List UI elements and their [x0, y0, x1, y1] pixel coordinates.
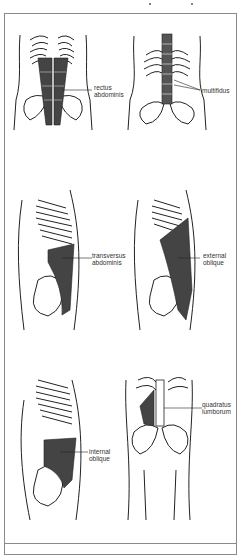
label-line: quadratus: [202, 401, 231, 408]
figure-transversus-abdominis: transversus abdominis: [0, 200, 120, 330]
figure-internal-oblique: internal oblique: [0, 380, 120, 520]
figure-quadratus-lumborum: quadratus lumborum: [120, 380, 241, 520]
label-line: multifidus: [202, 87, 229, 94]
figure-rectus-abdominis: rectus abdominis: [0, 0, 120, 130]
label-multifidus: multifidus: [202, 87, 229, 94]
label-line: lumborum: [202, 408, 231, 415]
figure-external-oblique: external oblique: [120, 200, 241, 330]
label-line: internal: [89, 448, 110, 455]
figure-multifidus: multifidus: [120, 0, 241, 130]
label-external-oblique: external oblique: [203, 252, 226, 266]
label-internal-oblique: internal oblique: [89, 448, 110, 462]
torso-anterior-illustration: [0, 0, 120, 130]
caption-frame: [4, 543, 237, 555]
label-line: oblique: [203, 259, 226, 266]
label-line: external: [203, 252, 226, 259]
torso-posterior-illustration: [120, 0, 241, 130]
label-quadratus-lumborum: quadratus lumborum: [202, 401, 231, 415]
label-line: oblique: [89, 455, 110, 462]
